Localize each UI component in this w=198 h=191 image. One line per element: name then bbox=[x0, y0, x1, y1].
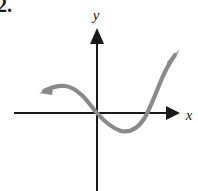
x-axis-label: x bbox=[185, 107, 193, 123]
y-axis-arrowhead-icon bbox=[90, 28, 104, 44]
y-axis-label: y bbox=[91, 7, 100, 23]
figure-container: 2. y x bbox=[0, 0, 198, 191]
x-axis-arrowhead-icon bbox=[166, 106, 180, 120]
function-curve bbox=[44, 55, 175, 131]
curve-right-arrowhead-icon bbox=[167, 49, 180, 68]
coordinate-plane-graph: y x bbox=[0, 0, 198, 191]
